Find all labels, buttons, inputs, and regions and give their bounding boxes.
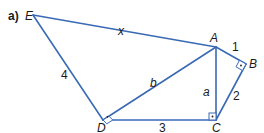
- edge-EA: [33, 15, 216, 47]
- edge-label-a: a: [203, 85, 210, 99]
- right-angle-marker-C: [209, 113, 216, 120]
- vertex-label-D: D: [97, 121, 106, 133]
- edge-label-b: b: [150, 76, 157, 90]
- edge-ED: [33, 15, 103, 120]
- edge-label-1: 1: [232, 40, 239, 54]
- vertex-label-C: C: [212, 121, 221, 133]
- edge-BC: [216, 64, 246, 120]
- vertex-label-E: E: [25, 9, 34, 23]
- edge-label-2: 2: [233, 89, 240, 103]
- right-angle-marker-B: [236, 60, 246, 70]
- vertex-label-B: B: [249, 57, 257, 71]
- part-label: a): [8, 9, 19, 23]
- vertex-label-A: A: [209, 31, 218, 45]
- edge-label-x: x: [117, 24, 125, 38]
- edge-label-3: 3: [159, 121, 166, 133]
- edge-AD: [103, 47, 216, 120]
- geometry-figure: a) E A B C D x 4 1 2 a b 3: [0, 0, 264, 133]
- edge-label-4: 4: [61, 68, 68, 82]
